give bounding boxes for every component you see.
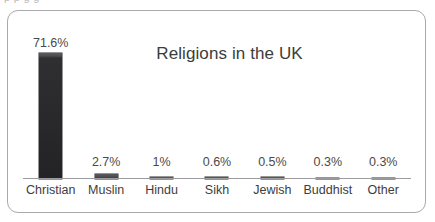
bar-column-christian[interactable]: 71.6% (23, 31, 78, 179)
bar-column-muslin[interactable]: 2.7% (78, 31, 133, 179)
plot-area: Religions in the UK 71.6% 2.7% 1% 0.6% 0… (8, 11, 425, 212)
bar-value-label: 2.7% (78, 155, 133, 169)
category-label-jewish: Jewish (245, 183, 300, 197)
bar-column-jewish[interactable]: 0.5% (245, 31, 300, 179)
bar-column-sikh[interactable]: 0.6% (189, 31, 244, 179)
clipped-text-above-figure: p p g g (0, 0, 435, 7)
category-label-muslin: Muslin (78, 183, 133, 197)
chart-figure-frame: Religions in the UK 71.6% 2.7% 1% 0.6% 0… (7, 10, 426, 213)
bar-value-label: 0.3% (300, 155, 355, 169)
bar-value-label: 0.5% (245, 155, 300, 169)
bar-column-hindu[interactable]: 1% (134, 31, 189, 179)
x-axis-category-labels: Christian Muslin Hindu Sikh Jewish Buddh… (23, 183, 411, 197)
bar-column-buddhist[interactable]: 0.3% (300, 31, 355, 179)
bar-column-other[interactable]: 0.3% (356, 31, 411, 179)
category-label-buddhist: Buddhist (300, 183, 355, 197)
bar-value-label: 1% (134, 155, 189, 169)
category-label-christian: Christian (23, 183, 78, 197)
x-axis-line (23, 178, 411, 179)
bar-columns: 71.6% 2.7% 1% 0.6% 0.5% 0.3% (23, 31, 411, 179)
bar-christian[interactable] (39, 53, 62, 179)
category-label-hindu: Hindu (134, 183, 189, 197)
bar-value-label: 0.3% (356, 155, 411, 169)
bar-value-label: 71.6% (23, 36, 78, 50)
category-label-sikh: Sikh (189, 183, 244, 197)
clipped-text: p p g g (4, 0, 40, 3)
bar-value-label: 0.6% (189, 155, 244, 169)
category-label-other: Other (356, 183, 411, 197)
